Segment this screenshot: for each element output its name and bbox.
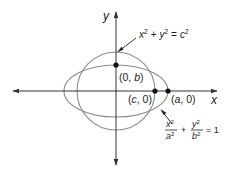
- label-c-0: (c, 0): [128, 93, 152, 105]
- x-axis-label: x: [210, 93, 218, 107]
- ellipse-pointer-arrowhead: [161, 109, 167, 115]
- svg-text:a2: a2: [166, 131, 175, 142]
- conic-diagram: y x (0, b) (c, 0) (a, 0) x2+y2=c2 x2 a2 …: [0, 0, 230, 175]
- svg-text:x2: x2: [165, 119, 175, 130]
- point-0-b: [113, 62, 118, 67]
- svg-text:b2: b2: [192, 131, 201, 142]
- circle-pointer-arrowhead: [117, 47, 124, 53]
- label-a-0: (a, 0): [171, 93, 196, 105]
- label-0-b: (0, b): [119, 71, 144, 83]
- svg-text:= 1: = 1: [206, 125, 219, 135]
- y-axis-label: y: [102, 9, 110, 23]
- ellipse-equation: x2 a2 + y2 b2 = 1: [165, 119, 219, 142]
- point-a-0: [165, 88, 170, 93]
- svg-text:y2: y2: [191, 119, 201, 130]
- point-c-0: [152, 88, 157, 93]
- svg-text:+: +: [181, 125, 186, 135]
- circle-equation: x2+y2=c2: [138, 28, 189, 40]
